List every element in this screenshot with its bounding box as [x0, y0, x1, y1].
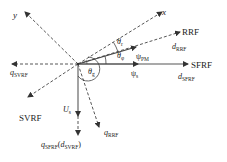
x-axis-label: x: [161, 7, 166, 17]
psi-s-label: ψs: [131, 69, 138, 79]
theta-phi-label: θφ: [117, 51, 124, 61]
sfrf-label: SFRF: [191, 60, 212, 70]
rrf-label: RRF: [182, 27, 199, 37]
q-sfrf-d-svrf-label: qSFRF(dSVRF): [41, 140, 81, 150]
origin-point: [77, 63, 79, 65]
d-sfrf-label: dSFRF: [178, 72, 195, 82]
y-axis: [25, 12, 78, 64]
theta-g-label: θg: [88, 67, 95, 77]
psi-pm-label: ψPM: [136, 52, 149, 62]
svrf-axis: [28, 64, 78, 97]
svrf-label: SVRF: [19, 113, 42, 123]
theta-r-label: θr: [117, 37, 123, 47]
y-axis-label: y: [12, 10, 17, 20]
d-rrf-label: dRRF: [172, 42, 186, 52]
q-rrf-label: qRRF: [104, 128, 118, 138]
q-svrf-label: qSVRF: [10, 68, 28, 78]
theta-phi-arc: [105, 56, 106, 64]
u-s-label: Us: [63, 105, 71, 115]
vector-diagram: x y RRF dRRF SFRF dSFRF ψPM ψs θr θφ θg …: [0, 0, 227, 162]
